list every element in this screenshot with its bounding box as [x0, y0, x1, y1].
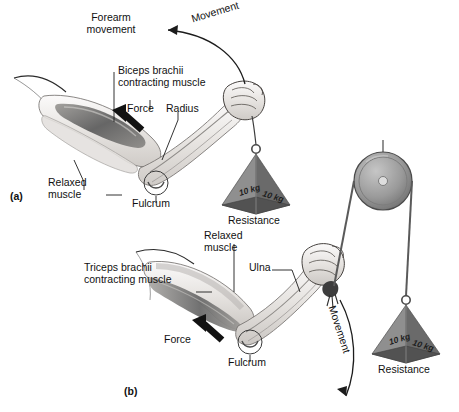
label-ulna-b: Ulna [249, 262, 271, 274]
label-fulcrum-b: Fulcrum [228, 357, 266, 369]
label-relaxed-muscle-a: Relaxed muscle [48, 177, 87, 200]
label-fulcrum-a: Fulcrum [132, 198, 170, 210]
weight-pyramid-b: 10 kg 10 kg [372, 305, 440, 363]
panel-b-illustration: 10 kg 10 kg [136, 140, 440, 396]
weight-ring-b [402, 296, 410, 304]
weight-cord-a [252, 116, 256, 145]
panel-label-a: (a) [10, 190, 23, 202]
label-triceps-brachii-contracting-muscle-b: Triceps brachii contracting muscle [84, 262, 172, 285]
pulley-cord-left-b [334, 181, 354, 286]
weight-pyramid-a: 10 kg 10 kg [222, 154, 290, 214]
label-relaxed-muscle-b: Relaxed muscle [204, 230, 243, 253]
fist-a [223, 81, 265, 120]
label-force-b: Force [164, 334, 191, 346]
label-resistance-b: Resistance [378, 364, 430, 376]
label-biceps-brachii-contracting-muscle-a: Biceps brachii contracting muscle [118, 65, 206, 88]
label-forearm-movement-a: Forearm movement [66, 12, 156, 35]
shoulder-contour-a [14, 76, 66, 92]
panel-label-b: (b) [124, 385, 137, 397]
pulley-wheel [354, 152, 412, 210]
lever-arm-figure: 10 kg 10 kg [0, 0, 459, 412]
label-force-a: Force [127, 103, 154, 115]
label-radius-a: Radius [166, 103, 199, 115]
label-resistance-a: Resistance [228, 215, 280, 227]
weight-ring-a [252, 145, 260, 153]
